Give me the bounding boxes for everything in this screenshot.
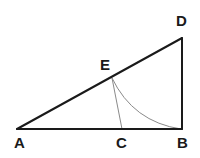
geometry-diagram: A C B D E	[0, 0, 200, 158]
vertex-label-a: A	[14, 134, 25, 151]
vertex-label-e: E	[100, 56, 110, 73]
vertex-label-d: D	[176, 12, 187, 29]
diagram-background	[0, 0, 200, 158]
vertex-label-c: C	[116, 134, 127, 151]
vertex-label-b: B	[177, 134, 188, 151]
